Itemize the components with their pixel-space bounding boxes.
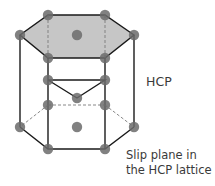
hidden-edge — [105, 105, 134, 127]
caption-line-1: Slip plane in — [126, 148, 212, 163]
atom — [15, 122, 25, 132]
caption-line-2: the HCP lattice — [126, 163, 212, 178]
hcp-lattice-diagram: HCP Slip plane in the HCP lattice — [0, 0, 215, 186]
atom — [43, 53, 53, 63]
atom — [100, 10, 110, 20]
atom — [72, 93, 82, 103]
atom — [72, 122, 82, 132]
atom — [43, 10, 53, 20]
atom — [100, 100, 110, 110]
atom — [15, 30, 25, 40]
atom — [43, 75, 53, 85]
atom — [129, 122, 139, 132]
atom — [43, 100, 53, 110]
atom — [43, 144, 53, 154]
atom — [100, 144, 110, 154]
atom — [100, 75, 110, 85]
atom — [100, 53, 110, 63]
diagram-caption: Slip plane in the HCP lattice — [126, 148, 212, 178]
atom — [129, 30, 139, 40]
hidden-edge — [20, 105, 48, 127]
atom — [72, 30, 82, 40]
diagram-title: HCP — [146, 74, 172, 89]
